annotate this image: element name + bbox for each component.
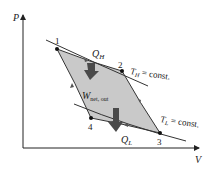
isotherm-high-label: TH = const. xyxy=(130,66,171,82)
isotherm-low-label: TL = const. xyxy=(160,114,200,130)
state-point-3 xyxy=(158,131,162,135)
cycle-area xyxy=(57,49,160,133)
state-point-1 xyxy=(55,47,59,51)
p-axis-label: P xyxy=(12,12,19,23)
state-label-1: 1 xyxy=(55,36,60,46)
heat-out-label: QL xyxy=(121,134,132,147)
state-label-3: 3 xyxy=(157,137,162,147)
v-axis-label: V xyxy=(195,154,203,165)
heat-in-label: QH xyxy=(92,48,105,61)
direction-arrow-4-1 xyxy=(70,83,74,88)
pv-diagram: P V 1 2 3 4 QH QL Wnet, out TH = const. … xyxy=(0,0,211,170)
state-label-2: 2 xyxy=(118,60,123,70)
state-point-4 xyxy=(89,116,93,120)
state-label-4: 4 xyxy=(88,122,93,132)
